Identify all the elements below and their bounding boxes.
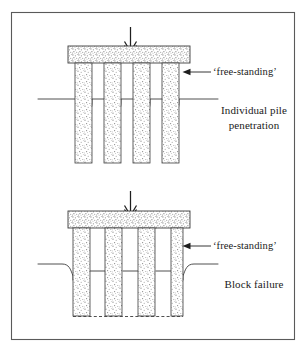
pile-cap-bottom — [68, 211, 190, 228]
pile-top-3 — [133, 63, 150, 163]
pile-top-4 — [162, 63, 179, 163]
pile-bottom-1 — [73, 228, 90, 316]
pile-top-2 — [104, 63, 121, 163]
free-standing-label-top: ‘free-standing’ — [213, 66, 277, 77]
free-standing-label-bottom: ‘free-standing’ — [213, 240, 277, 251]
pile-bottom-3 — [138, 228, 155, 316]
mode-label-individual-pile-penetration: Individual pile penetration — [206, 103, 302, 132]
pile-top-1 — [75, 63, 92, 163]
mode-label-block-failure: Block failure — [206, 277, 302, 292]
figure-canvas: ‘free-standing’ Individual pile penetrat… — [0, 0, 307, 352]
diagram-svg — [0, 0, 307, 352]
pile-cap-top — [68, 46, 190, 63]
pile-bottom-2 — [105, 228, 122, 316]
pile-bottom-4 — [171, 228, 183, 316]
